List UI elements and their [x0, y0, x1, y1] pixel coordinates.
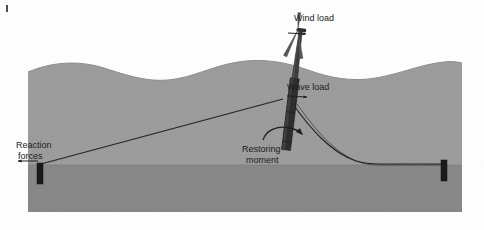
seabed-region — [28, 165, 462, 212]
wind-load-arrow — [288, 33, 306, 34]
restoring-moment-label-line2: moment — [246, 155, 279, 166]
wind-load-label: Wind load — [294, 13, 334, 23]
wave-load-label: Wave load — [287, 82, 329, 92]
seabed-anchor-left — [37, 163, 43, 184]
offshore-turbine-scene — [0, 0, 484, 230]
reaction-forces-label-line2: forces — [18, 151, 43, 162]
seabed-anchor-right — [441, 160, 447, 181]
diagram-canvas: Wind load Wave load Restoring moment Rea… — [0, 0, 484, 230]
reaction-forces-label-line1: Reaction — [16, 140, 52, 151]
restoring-moment-label-line1: Restoring — [242, 144, 281, 155]
